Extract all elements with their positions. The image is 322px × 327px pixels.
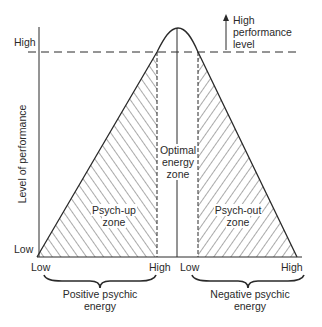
negative-energy-brace xyxy=(192,275,304,288)
positive-title-line1: Positive psychic xyxy=(63,288,138,300)
y-axis-title: Level of performance xyxy=(16,94,28,214)
optimal-line3: zone xyxy=(166,168,191,180)
negative-title-line1: Negative psychic xyxy=(210,288,289,300)
high-performance-label-1: High xyxy=(233,14,255,26)
psych-up-line2: zone xyxy=(102,216,127,228)
negative-energy-title: Negative psychic energy xyxy=(198,288,302,312)
optimal-zone-label: Optimal energy zone xyxy=(152,144,204,180)
y-axis-high-label: High xyxy=(14,36,36,48)
positive-high-label: High xyxy=(149,261,171,273)
positive-title-line2: energy xyxy=(84,300,116,312)
psych-up-zone-label: Psych-up zone xyxy=(84,204,144,228)
psych-out-line1: Psych-out xyxy=(214,204,263,216)
negative-low-label: Low xyxy=(180,261,199,273)
y-axis-low-label: Low xyxy=(14,243,33,255)
high-performance-label-3: level xyxy=(233,38,255,50)
high-performance-label-2: performance xyxy=(233,26,292,38)
negative-title-line2: energy xyxy=(234,300,266,312)
positive-energy-brace xyxy=(44,275,156,288)
optimal-line2: energy xyxy=(161,156,195,168)
positive-low-label: Low xyxy=(31,261,50,273)
up-arrow-icon xyxy=(223,14,229,50)
optimal-line1: Optimal xyxy=(159,144,197,156)
positive-energy-title: Positive psychic energy xyxy=(50,288,150,312)
psych-up-line1: Psych-up xyxy=(91,204,137,216)
negative-high-label: High xyxy=(281,261,303,273)
psych-out-zone-label: Psych-out zone xyxy=(207,204,269,228)
psych-out-line2: zone xyxy=(226,216,251,228)
